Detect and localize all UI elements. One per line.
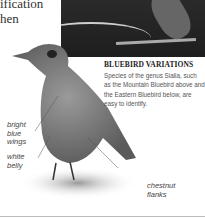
caption-body: Species of the genus Sialia, such as the… xyxy=(104,71,205,108)
intro-line: ification xyxy=(0,0,43,11)
label-bright-blue-wings: bright blue wings xyxy=(7,121,35,147)
intro-line: hen xyxy=(0,11,43,26)
caption: BLUEBIRD VARIATIONS Species of the genus… xyxy=(104,60,205,108)
caption-title: BLUEBIRD VARIATIONS xyxy=(104,60,205,69)
bottom-divider xyxy=(0,216,205,217)
intro-text: ification hen xyxy=(0,0,43,26)
label-white-belly: white belly xyxy=(7,153,35,170)
label-chestnut-flanks: chestnut flanks xyxy=(147,182,187,199)
